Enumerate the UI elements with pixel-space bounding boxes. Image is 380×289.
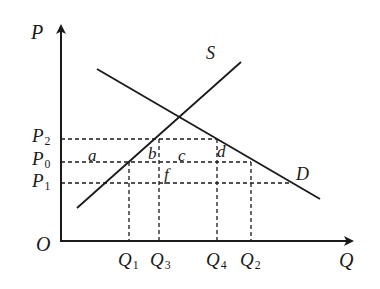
p2-label: P2 bbox=[32, 126, 51, 148]
demand-curve-label: D bbox=[296, 165, 309, 183]
q4-label: Q4 bbox=[206, 250, 227, 272]
region-b-label: b bbox=[148, 145, 157, 162]
region-f-label: f bbox=[164, 166, 169, 183]
q1-label: Q1 bbox=[118, 250, 139, 272]
supply-curve bbox=[77, 62, 241, 208]
region-c-label: c bbox=[178, 147, 186, 164]
y-axis-label: P bbox=[31, 22, 43, 42]
x-axis-label: Q bbox=[339, 250, 353, 270]
q2-label: Q2 bbox=[240, 250, 261, 272]
region-a-label: a bbox=[88, 147, 97, 164]
p0-label: P0 bbox=[32, 149, 51, 171]
q3-label: Q3 bbox=[150, 250, 171, 272]
region-d-label: d bbox=[217, 143, 226, 160]
supply-demand-diagram bbox=[0, 0, 380, 289]
origin-label: O bbox=[36, 234, 50, 254]
supply-curve-label: S bbox=[206, 44, 215, 62]
p1-label: P1 bbox=[32, 171, 51, 193]
demand-curve bbox=[97, 69, 320, 199]
